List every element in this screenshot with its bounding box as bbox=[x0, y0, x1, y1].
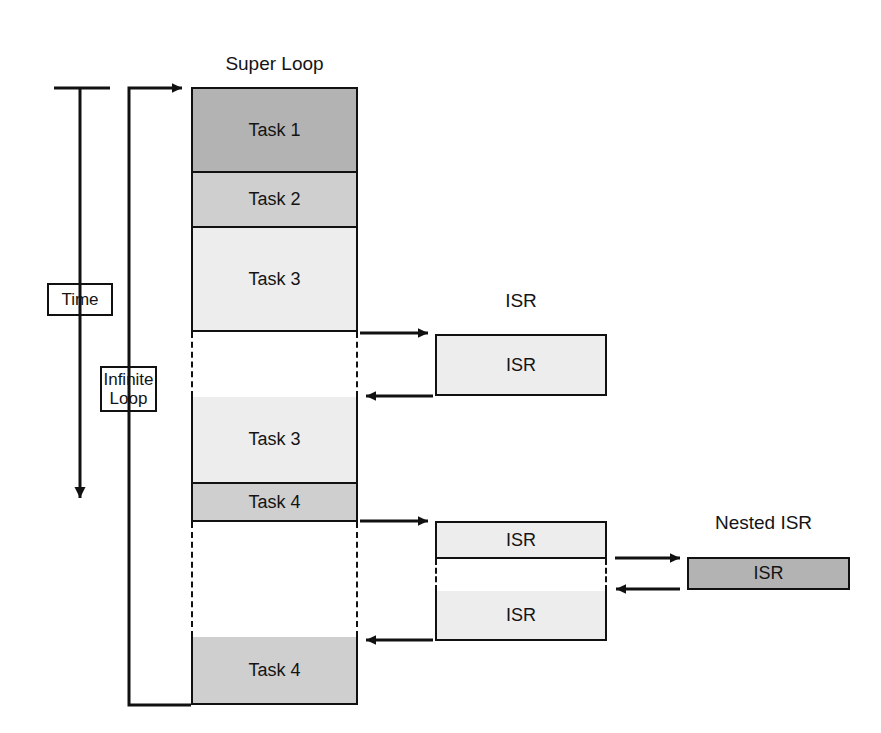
block-label: ISR bbox=[753, 563, 783, 584]
super-loop-block-task1[interactable]: Task 1 bbox=[191, 87, 358, 173]
block-label: Task 4 bbox=[248, 492, 300, 513]
isr-block[interactable]: ISR bbox=[435, 334, 607, 396]
super-loop-block-task3-a[interactable]: Task 3 bbox=[191, 228, 358, 332]
infinite-loop-label-box: Infinite Loop bbox=[100, 366, 157, 412]
nested-group-gap bbox=[435, 559, 607, 591]
block-label: ISR bbox=[506, 530, 536, 551]
super-loop-block-task3-b[interactable]: Task 3 bbox=[191, 397, 358, 484]
block-label: Task 1 bbox=[248, 120, 300, 141]
infinite-loop-label: Infinite Loop bbox=[103, 370, 153, 408]
block-label: Task 2 bbox=[248, 189, 300, 210]
nested-group-block-isr-top[interactable]: ISR bbox=[435, 521, 607, 559]
block-label: ISR bbox=[506, 605, 536, 626]
super-loop-title-main: Super Loop bbox=[191, 52, 358, 76]
block-label: ISR bbox=[506, 355, 536, 376]
super-loop-block-task4-a[interactable]: Task 4 bbox=[191, 484, 358, 522]
super-loop-block-task4-b[interactable]: Task 4 bbox=[191, 637, 358, 705]
super-loop-gap-lower bbox=[191, 522, 358, 637]
time-label: Time bbox=[61, 290, 98, 309]
block-label: Task 3 bbox=[248, 429, 300, 450]
block-label: Task 4 bbox=[248, 660, 300, 681]
isr-panel-title-main: ISR bbox=[435, 289, 607, 313]
block-label: Task 3 bbox=[248, 269, 300, 290]
super-loop-block-task2[interactable]: Task 2 bbox=[191, 173, 358, 228]
nested-group-block-isr-bottom[interactable]: ISR bbox=[435, 591, 607, 641]
super-loop-gap-upper bbox=[191, 332, 358, 397]
nested-isr-block[interactable]: ISR bbox=[687, 557, 850, 590]
diagram-canvas: Super Loop (Background) ISR (Foreground)… bbox=[0, 0, 881, 733]
nested-isr-panel-title-main: Nested ISR bbox=[676, 511, 851, 535]
time-label-box: Time bbox=[47, 283, 113, 316]
